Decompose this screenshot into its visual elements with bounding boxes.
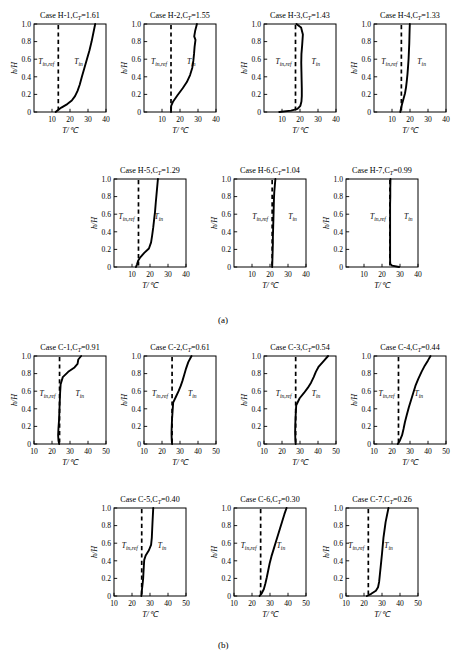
x-tick-label: 50 bbox=[414, 599, 422, 608]
label-t-in-ref: Tin,ref bbox=[252, 212, 269, 222]
x-tick-label: 10 bbox=[230, 599, 238, 608]
chart-panel-h-2: Case H-2,CT=1.5500.20.40.60.81.010203040… bbox=[118, 8, 228, 142]
label-t-in-ref: Tin,ref bbox=[152, 389, 169, 399]
label-t-in-ref: Tin,ref bbox=[378, 389, 395, 399]
panel-title: Case H-1,CT=1.61 bbox=[40, 11, 100, 21]
x-tick-label: 30 bbox=[314, 115, 322, 124]
y-tick-label: 0.4 bbox=[102, 228, 112, 237]
temperature-curve bbox=[172, 356, 192, 444]
x-tick-label: 30 bbox=[284, 270, 292, 279]
y-tick-label: 1.0 bbox=[22, 352, 32, 361]
x-axis-label: T/℃ bbox=[292, 126, 309, 135]
x-tick-label: 10 bbox=[248, 270, 256, 279]
x-tick-label: 10 bbox=[278, 115, 286, 124]
label-t-in: Tin bbox=[404, 212, 413, 222]
y-tick-label: 1.0 bbox=[334, 504, 344, 513]
y-tick-label: 0.6 bbox=[362, 55, 372, 64]
panel-title: Case H-4,CT=1.33 bbox=[380, 11, 440, 21]
y-tick-label: 0.6 bbox=[252, 387, 262, 396]
chart-panel-c-3: Case C-3,CT=0.5400.20.40.60.81.010203040… bbox=[238, 340, 348, 474]
x-tick-label: 50 bbox=[212, 447, 220, 456]
x-tick-label: 30 bbox=[266, 599, 274, 608]
chart-panel-c-7: Case C-7,CT=0.2600.20.40.60.81.010203040… bbox=[320, 492, 430, 626]
plot-frame bbox=[144, 356, 216, 444]
temperature-curve bbox=[398, 356, 431, 444]
x-axis-label: T/℃ bbox=[262, 281, 279, 290]
x-tick-label: 20 bbox=[248, 599, 256, 608]
y-tick-label: 1.0 bbox=[362, 20, 372, 29]
label-t-in-ref: Tin,ref bbox=[276, 389, 293, 399]
y-tick-label: 0.4 bbox=[22, 405, 32, 414]
y-tick-label: 0.4 bbox=[252, 73, 262, 82]
part-label-b: (b) bbox=[218, 640, 229, 650]
x-tick-label: 10 bbox=[260, 447, 268, 456]
x-tick-label: 20 bbox=[406, 115, 414, 124]
x-axis-label: T/℃ bbox=[262, 610, 279, 619]
panel-title: Case H-6,CT=1.04 bbox=[240, 166, 300, 176]
label-t-in: Tin bbox=[188, 389, 197, 399]
y-tick-label: 0.2 bbox=[132, 422, 142, 431]
y-tick-label: 0.4 bbox=[334, 557, 344, 566]
x-tick-label: 40 bbox=[84, 447, 92, 456]
x-tick-label: 30 bbox=[296, 447, 304, 456]
x-tick-label: 10 bbox=[158, 115, 166, 124]
label-t-in: Tin bbox=[414, 389, 423, 399]
panel-title: Case C-3,CT=0.54 bbox=[270, 343, 329, 353]
chart-panel-h-1: Case H-1,CT=1.6100.20.40.60.81.010203040… bbox=[8, 8, 118, 142]
temperature-curve bbox=[367, 508, 389, 596]
y-tick-label: 1.0 bbox=[102, 504, 112, 513]
x-axis-label: T/℃ bbox=[142, 610, 159, 619]
y-tick-label: 0.6 bbox=[222, 539, 232, 548]
plot-frame bbox=[374, 356, 446, 444]
x-tick-label: 10 bbox=[342, 599, 350, 608]
plot-frame bbox=[264, 24, 336, 112]
y-tick-label: 0.2 bbox=[102, 245, 112, 254]
y-tick-label: 0.8 bbox=[334, 192, 344, 201]
chart-panel-c-2: Case C-2,CT=0.6100.20.40.60.81.010203040… bbox=[118, 340, 228, 474]
x-tick-label: 40 bbox=[414, 270, 422, 279]
x-tick-label: 40 bbox=[442, 115, 450, 124]
x-tick-label: 10 bbox=[388, 115, 396, 124]
y-tick-label: 0.4 bbox=[362, 73, 372, 82]
y-axis-label: h/H bbox=[120, 61, 129, 74]
y-axis-label: h/H bbox=[240, 61, 249, 74]
label-t-in: Tin bbox=[384, 541, 393, 551]
label-t-in-ref: Tin,ref bbox=[370, 212, 387, 222]
y-tick-label: 0.4 bbox=[102, 557, 112, 566]
y-axis-label: h/H bbox=[350, 61, 359, 74]
y-tick-label: 0.8 bbox=[102, 192, 112, 201]
panel-title: Case H-2,CT=1.55 bbox=[150, 11, 210, 21]
y-tick-label: 0.8 bbox=[22, 369, 32, 378]
x-tick-label: 40 bbox=[194, 447, 202, 456]
panel-title: Case C-6,CT=0.30 bbox=[240, 495, 299, 505]
x-tick-label: 30 bbox=[406, 447, 414, 456]
label-t-in-ref: Tin,ref bbox=[151, 57, 168, 67]
chart-panel-c-6: Case C-6,CT=0.3000.20.40.60.81.010203040… bbox=[208, 492, 318, 626]
y-tick-label: 0.2 bbox=[252, 422, 262, 431]
x-tick-label: 20 bbox=[388, 447, 396, 456]
figure-root: Case H-1,CT=1.6100.20.40.60.81.010203040… bbox=[0, 0, 459, 658]
plot-frame bbox=[234, 179, 306, 267]
y-tick-label: 0.8 bbox=[132, 37, 142, 46]
y-tick-label: 0.4 bbox=[252, 405, 262, 414]
y-tick-label: 0.4 bbox=[132, 405, 142, 414]
y-tick-label: 0.4 bbox=[132, 73, 142, 82]
x-tick-label: 40 bbox=[396, 599, 404, 608]
x-tick-label: 10 bbox=[370, 447, 378, 456]
panel-title: Case H-3,CT=1.43 bbox=[270, 11, 330, 21]
y-tick-label: 0.6 bbox=[334, 539, 344, 548]
x-tick-label: 10 bbox=[30, 447, 38, 456]
y-tick-label: 1.0 bbox=[252, 20, 262, 29]
label-t-in: Tin bbox=[74, 57, 83, 67]
label-t-in-ref: Tin,ref bbox=[40, 389, 57, 399]
y-tick-label: 0.8 bbox=[252, 37, 262, 46]
y-tick-label: 0.6 bbox=[132, 55, 142, 64]
y-tick-label: 0.6 bbox=[334, 210, 344, 219]
label-t-in: Tin bbox=[417, 57, 426, 67]
x-axis-label: T/℃ bbox=[62, 126, 79, 135]
y-tick-label: 0.2 bbox=[362, 90, 372, 99]
y-tick-label: 0 bbox=[257, 108, 261, 117]
plot-frame bbox=[264, 356, 336, 444]
label-t-in-ref: Tin,ref bbox=[348, 541, 365, 551]
panel-title: Case C-7,CT=0.26 bbox=[352, 495, 411, 505]
